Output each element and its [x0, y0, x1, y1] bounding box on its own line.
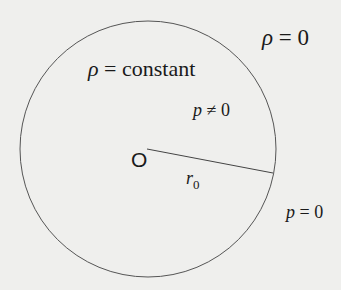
surface-pressure-label: p = 0 [286, 202, 323, 223]
p-symbol: p [286, 202, 295, 222]
center-label: O [131, 148, 147, 172]
outside-density-value: = 0 [273, 25, 309, 50]
rho-symbol: ρ [262, 25, 273, 50]
rho-symbol: ρ [88, 56, 99, 81]
inside-pressure-value: ≠ 0 [202, 100, 230, 120]
radius-label: r0 [186, 168, 200, 193]
radius-line [147, 149, 273, 173]
r-symbol: r [186, 168, 193, 188]
inside-density-value: = constant [99, 56, 196, 81]
inside-density-label: ρ = constant [88, 56, 195, 82]
radius-subscript: 0 [193, 177, 200, 192]
p-symbol: p [193, 100, 202, 120]
inside-pressure-label: p ≠ 0 [193, 100, 230, 121]
outside-density-label: ρ = 0 [262, 25, 309, 51]
surface-pressure-value: = 0 [295, 202, 323, 222]
